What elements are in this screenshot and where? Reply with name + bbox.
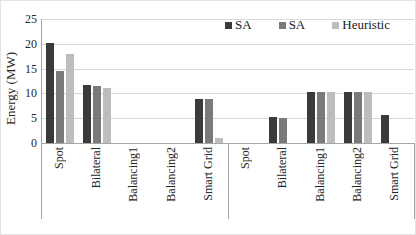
x-category-label: Balancing1 (313, 147, 327, 202)
x-category-label: Balancing2 (350, 147, 364, 202)
x-category-label: Bilateral (89, 147, 103, 188)
bar-balancing1-s2 (327, 92, 335, 143)
legend-swatch-icon (225, 22, 232, 29)
bar-balancing2-s1 (354, 92, 362, 143)
category-divider (414, 143, 415, 219)
bar-smart-grid-s0 (381, 115, 389, 143)
bar-smart-grid-s2 (215, 138, 223, 143)
gridline-15 (41, 69, 414, 70)
bar-bilateral-s2 (103, 88, 111, 143)
bar-balancing2-s2 (364, 92, 372, 143)
y-tick-label: 20 (11, 38, 37, 50)
x-category-label: Balancing2 (164, 147, 178, 202)
x-category-label: Smart Grid (387, 147, 401, 201)
x-category-label: Spot (238, 147, 252, 169)
bar-balancing1-s0 (307, 92, 315, 143)
gridline-25 (41, 19, 414, 20)
bar-spot-s1 (56, 71, 64, 143)
x-category-label: Spot (52, 147, 66, 169)
gridline-20 (41, 44, 414, 45)
legend-swatch-icon (279, 22, 286, 29)
y-tick-label: 5 (11, 112, 37, 124)
y-tick-label: 0 (11, 137, 37, 149)
bar-chart: Energy (MW) SASAHeuristic 0510152025Spot… (0, 0, 416, 235)
bar-balancing2-s0 (344, 92, 352, 143)
bar-bilateral-s1 (93, 86, 101, 143)
category-divider (228, 143, 229, 219)
bar-spot-s0 (46, 43, 54, 143)
bar-smart-grid-s1 (205, 99, 213, 143)
bar-balancing1-s1 (317, 92, 325, 143)
y-axis-line (41, 19, 42, 219)
x-category-label: Smart Grid (201, 147, 215, 201)
bar-bilateral-s0 (83, 85, 91, 143)
bar-bilateral-s0 (269, 117, 277, 143)
bar-bilateral-s1 (279, 118, 287, 143)
y-tick-label: 15 (11, 63, 37, 75)
y-tick-label: 10 (11, 87, 37, 99)
x-category-label: Balancing1 (126, 147, 140, 202)
legend-swatch-icon (332, 22, 339, 29)
x-category-label: Bilateral (275, 147, 289, 188)
y-tick-label: 25 (11, 13, 37, 25)
bar-smart-grid-s0 (195, 99, 203, 143)
bar-spot-s2 (66, 54, 74, 143)
